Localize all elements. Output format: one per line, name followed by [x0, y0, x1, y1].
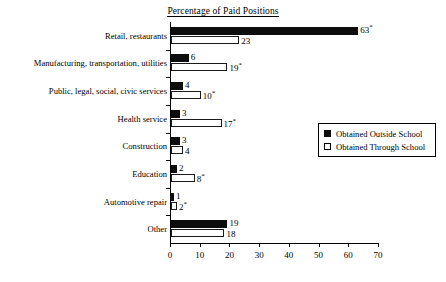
bar-outside-school: [171, 110, 180, 118]
chart-container: Percentage of Paid Positions 01020304050…: [0, 0, 446, 282]
filled-square-icon: [324, 130, 331, 137]
bar-through-school: [171, 63, 227, 71]
x-axis-tick-label: 10: [185, 250, 215, 260]
category-label: Public, legal, social, civic services: [0, 86, 167, 96]
bar-value-through-school: 18: [226, 230, 235, 239]
y-axis-category-tick: [166, 133, 170, 134]
x-axis-tick: [378, 243, 379, 247]
x-axis-tick-label: 70: [363, 250, 393, 260]
category-label: Manufacturing, transportation, utilities: [0, 58, 167, 68]
category-label: Health service: [0, 114, 167, 124]
category-label: Retail, restaurants: [0, 31, 167, 41]
x-axis-tick: [289, 243, 290, 247]
legend-label-outside-school: Obtained Outside School: [336, 129, 422, 139]
category-label: Automotive repair: [0, 197, 167, 207]
x-axis-tick-label: 30: [244, 250, 274, 260]
bar-outside-school: [171, 54, 189, 62]
bar-value-outside-school: 1: [176, 192, 181, 201]
y-axis-category-tick: [166, 188, 170, 189]
bar-value-through-school: 17*: [224, 120, 237, 129]
x-axis-tick: [200, 243, 201, 247]
x-axis-tick-label: 20: [214, 250, 244, 260]
category-label: Education: [0, 169, 167, 179]
bar-outside-school: [171, 193, 174, 201]
legend-item-through-school: Obtained Through School: [324, 140, 435, 153]
bar-value-outside-school: 19: [229, 219, 238, 228]
x-axis-tick: [259, 243, 260, 247]
x-axis-tick: [319, 243, 320, 247]
bar-value-through-school: 8*: [197, 175, 205, 184]
bar-value-outside-school: 3: [182, 109, 187, 118]
bar-value-outside-school: 3: [182, 136, 187, 145]
bar-through-school: [171, 202, 177, 210]
bar-through-school: [171, 36, 239, 44]
y-axis-category-tick: [166, 160, 170, 161]
x-axis-tick-label: 50: [304, 250, 334, 260]
x-axis-tick: [348, 243, 349, 247]
category-label: Construction: [0, 141, 167, 151]
bar-through-school: [171, 229, 224, 237]
bar-outside-school: [171, 165, 177, 173]
bar-outside-school: [171, 27, 358, 35]
bar-value-through-school: 2*: [179, 203, 187, 212]
bar-value-through-school: 19*: [229, 64, 242, 73]
bar-value-through-school: 23: [241, 37, 250, 46]
x-axis-tick: [170, 243, 171, 247]
bar-through-school: [171, 174, 195, 182]
bar-value-through-school: 4: [185, 147, 190, 156]
legend-item-outside-school: Obtained Outside School: [324, 127, 435, 140]
bar-value-outside-school: 4: [185, 81, 190, 90]
bar-outside-school: [171, 82, 183, 90]
y-axis-category-tick: [166, 215, 170, 216]
bar-through-school: [171, 146, 183, 154]
x-axis-tick-label: 40: [274, 250, 304, 260]
category-label: Other: [0, 224, 167, 234]
y-axis-category-tick: [166, 50, 170, 51]
bar-value-through-school: 10*: [203, 92, 216, 101]
bar-through-school: [171, 91, 201, 99]
bar-value-outside-school: 63*: [360, 26, 373, 35]
legend-label-through-school: Obtained Through School: [336, 142, 425, 152]
y-axis-category-tick: [166, 105, 170, 106]
x-axis-line: [170, 243, 378, 244]
bar-outside-school: [171, 137, 180, 145]
bar-through-school: [171, 119, 222, 127]
y-axis-category-tick: [166, 77, 170, 78]
bar-value-outside-school: 6: [191, 53, 196, 62]
x-axis-tick: [229, 243, 230, 247]
x-axis-tick-label: 0: [155, 250, 185, 260]
open-square-icon: [324, 143, 331, 150]
x-axis-tick-label: 60: [333, 250, 363, 260]
bar-value-outside-school: 2: [179, 164, 184, 173]
chart-legend: Obtained Outside School Obtained Through…: [318, 123, 436, 157]
bar-outside-school: [171, 220, 227, 228]
